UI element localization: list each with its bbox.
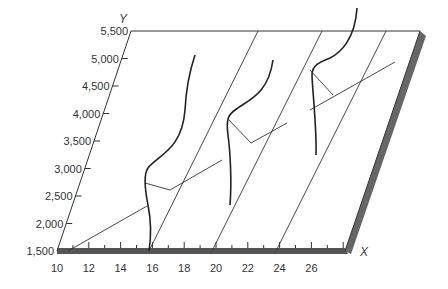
mean-connectors: [145, 70, 333, 190]
x-tick-label: 20: [210, 262, 222, 274]
x-axis-name: X: [359, 245, 369, 259]
y-tick-label: 5,500: [100, 25, 128, 37]
x-axis-labels: 101214161820222426: [51, 262, 318, 274]
x-tick-label: 14: [114, 262, 126, 274]
x-tick-label: 22: [242, 262, 254, 274]
y-tick-label: 3,000: [54, 163, 82, 175]
x-tick-label: 10: [51, 262, 63, 274]
y-axis-labels: 1,5002,0002,5003,0003,5004,0004,5005,000…: [26, 25, 128, 257]
x-tick-label: 24: [273, 262, 285, 274]
x-axis-ticks: [73, 242, 343, 248]
regression-diagram: 1,5002,0002,5003,0003,5004,0004,5005,000…: [0, 0, 448, 289]
y-tick-label: 4,000: [73, 108, 101, 120]
y-tick-label: 4,500: [82, 80, 110, 92]
x-tick-label: 16: [146, 262, 158, 274]
y-tick-label: 2,500: [45, 190, 73, 202]
curve-x24: [312, 8, 357, 155]
curve-x16: [145, 55, 195, 251]
x-tick-label: 18: [178, 262, 190, 274]
y-tick-label: 3,500: [63, 135, 91, 147]
y-axis-name: Y: [119, 12, 128, 26]
distribution-guide-lines: [149, 31, 386, 251]
y-tick-label: 1,500: [26, 245, 54, 257]
curve-x20: [227, 60, 273, 205]
x-tick-label: 26: [305, 262, 317, 274]
x-tick-label: 12: [83, 262, 95, 274]
regression-line: [68, 62, 395, 251]
y-tick-label: 5,000: [91, 53, 119, 65]
y-tick-label: 2,000: [36, 218, 64, 230]
